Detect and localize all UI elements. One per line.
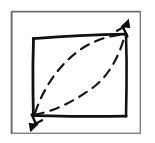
paper-background: [0, 0, 155, 143]
square-edge-left: [33, 38, 34, 115]
square-edge-right: [126, 35, 127, 117]
square-edge-bottom: [33, 116, 126, 117]
sketch-canvas: [0, 0, 155, 143]
figure-container: Hand-drawn square with two dashed arcs b…: [0, 0, 155, 143]
